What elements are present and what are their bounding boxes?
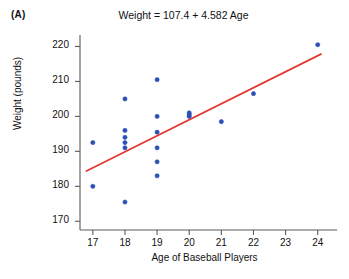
y-tick-label: 210 xyxy=(39,74,69,85)
data-point xyxy=(123,200,127,204)
y-tick-label: 190 xyxy=(39,144,69,155)
regression-line xyxy=(86,54,321,171)
data-point xyxy=(219,120,223,124)
figure-panel-a: (A) Weight = 107.4 + 4.582 Age Weight (p… xyxy=(0,0,349,279)
x-tick-label: 22 xyxy=(242,237,264,248)
data-point xyxy=(251,92,255,96)
data-point xyxy=(155,146,159,150)
data-point xyxy=(187,113,191,117)
data-point xyxy=(91,141,95,145)
x-tick-label: 17 xyxy=(82,237,104,248)
x-tick-label: 18 xyxy=(114,237,136,248)
data-point xyxy=(123,128,127,132)
data-point xyxy=(91,184,95,188)
y-tick-label: 220 xyxy=(39,39,69,50)
data-point xyxy=(123,146,127,150)
data-point xyxy=(155,160,159,164)
y-tick-label: 200 xyxy=(39,109,69,120)
data-point xyxy=(155,78,159,82)
data-point xyxy=(316,43,320,47)
data-point xyxy=(155,130,159,134)
x-tick-label: 21 xyxy=(210,237,232,248)
y-tick-label: 180 xyxy=(39,179,69,190)
x-tick-label: 20 xyxy=(178,237,200,248)
data-point xyxy=(155,174,159,178)
x-tick-label: 24 xyxy=(307,237,329,248)
x-tick-label: 19 xyxy=(146,237,168,248)
data-point xyxy=(155,114,159,118)
x-tick-label: 23 xyxy=(275,237,297,248)
data-point xyxy=(123,141,127,145)
y-tick-label: 170 xyxy=(39,214,69,225)
data-point xyxy=(123,97,127,101)
data-point xyxy=(123,135,127,139)
